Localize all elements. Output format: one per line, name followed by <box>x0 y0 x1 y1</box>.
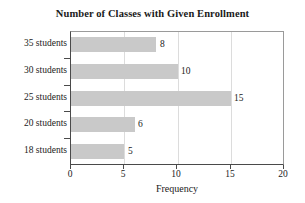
x-axis-title: Frequency <box>70 183 284 194</box>
plot-area: 8 10 15 6 5 <box>70 31 284 165</box>
bar-row: 10 <box>71 59 283 86</box>
bar-value-label: 10 <box>181 62 191 80</box>
bar-row: 6 <box>71 112 283 139</box>
x-axis-tick-label-2: 10 <box>161 169 191 179</box>
bar-25-students <box>71 91 231 106</box>
bar-18-students <box>71 144 124 159</box>
bar-value-label: 8 <box>160 35 165 53</box>
bar-value-label: 6 <box>138 115 143 133</box>
y-axis-label-4: 18 students <box>3 145 67 155</box>
bar-20-students <box>71 117 135 132</box>
bar-30-students <box>71 64 178 79</box>
y-axis-label-0: 35 students <box>3 38 67 48</box>
y-axis-label-2: 25 students <box>3 92 67 102</box>
bar-row: 15 <box>71 86 283 113</box>
x-axis-tick-label-3: 15 <box>215 169 245 179</box>
x-axis-tick-label-0: 0 <box>55 169 85 179</box>
bar-row: 8 <box>71 32 283 59</box>
bar-value-label: 15 <box>234 89 244 107</box>
y-axis-label-3: 20 students <box>3 118 67 128</box>
bar-35-students <box>71 37 156 52</box>
chart-figure: Number of Classes with Given Enrollment … <box>0 0 305 203</box>
chart-title: Number of Classes with Given Enrollment <box>0 8 305 19</box>
bar-row: 5 <box>71 139 283 166</box>
x-axis-tick-label-4: 20 <box>268 169 298 179</box>
bar-value-label: 5 <box>128 142 133 160</box>
x-axis-tick-label-1: 5 <box>108 169 138 179</box>
y-axis-label-1: 30 students <box>3 65 67 75</box>
